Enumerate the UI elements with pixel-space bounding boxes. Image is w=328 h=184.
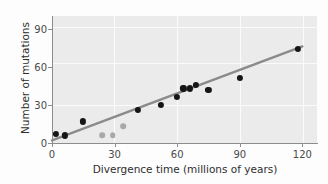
- data-point: [120, 124, 126, 130]
- x-tick-90: [240, 143, 241, 147]
- y-tick-60: [48, 67, 52, 68]
- gridline-vertical-60: [177, 16, 178, 143]
- data-point: [99, 133, 105, 139]
- x-ticklabel-120: 120: [293, 149, 312, 160]
- y-tick-0: [48, 143, 52, 144]
- y-ticklabel-30: 30: [34, 99, 47, 110]
- x-ticklabel-0: 0: [49, 149, 55, 160]
- y-tick-90: [48, 29, 52, 30]
- y-axis-line: [52, 16, 53, 144]
- y-ticklabel-90: 90: [34, 23, 47, 34]
- y-ticklabel-0: 0: [41, 138, 47, 149]
- x-ticklabel-30: 30: [108, 149, 121, 160]
- x-tick-60: [177, 143, 178, 147]
- x-tick-120: [302, 143, 303, 147]
- y-axis-label: Number of mutations: [19, 13, 31, 143]
- x-tick-30: [115, 143, 116, 147]
- gridline-horizontal-30: [52, 105, 317, 106]
- gridline-vertical-30: [114, 16, 115, 143]
- y-ticklabel-60: 60: [34, 61, 47, 72]
- data-point: [110, 133, 116, 139]
- gridline-horizontal-60: [52, 63, 317, 64]
- x-ticklabel-60: 60: [171, 149, 184, 160]
- x-axis-label: Divergence time (millions of years): [52, 163, 318, 175]
- scatter-chart-figure: 0306090120 0306090 Divergence time (mill…: [0, 0, 328, 184]
- gridline-horizontal-90: [52, 27, 317, 28]
- x-ticklabel-90: 90: [233, 149, 246, 160]
- x-axis-line: [52, 143, 318, 144]
- plot-panel: [52, 16, 317, 143]
- y-tick-30: [48, 105, 52, 106]
- x-tick-0: [52, 143, 53, 147]
- gridline-vertical-120: [303, 16, 304, 143]
